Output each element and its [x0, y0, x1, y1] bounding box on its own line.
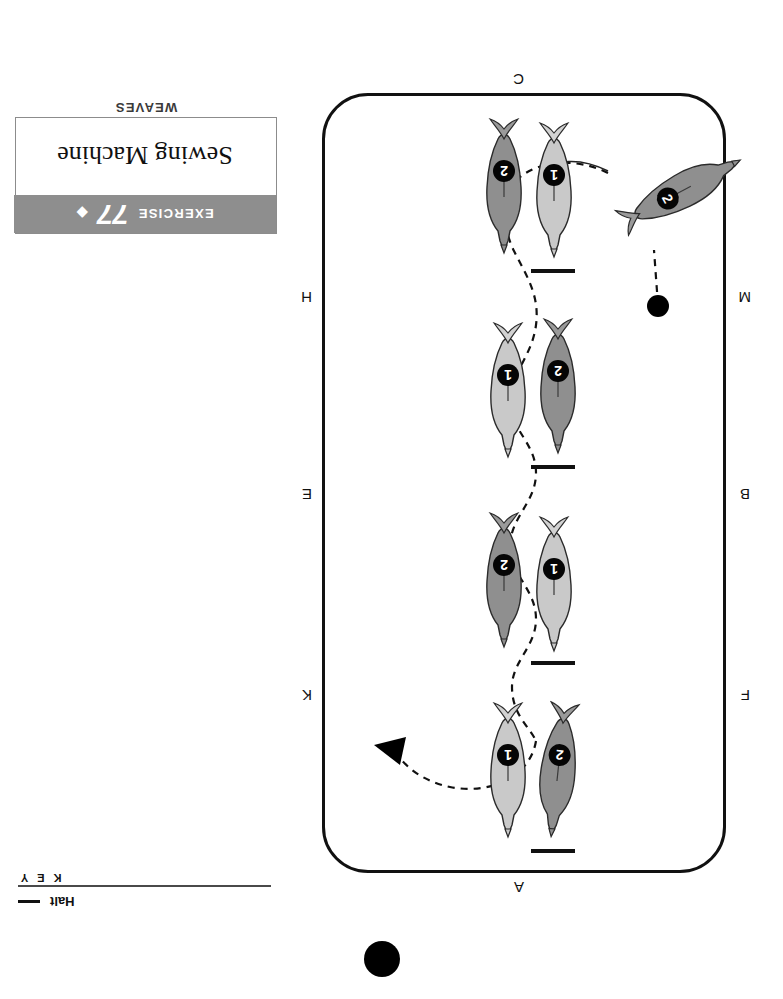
halt-bar-pair-3: [531, 661, 575, 665]
page-marker-dot: [364, 941, 400, 977]
exercise-number: 77: [97, 200, 128, 228]
exercise-name: Sewing Machine: [14, 116, 276, 195]
svg-text:1: 1: [504, 367, 512, 383]
svg-text:2: 2: [555, 747, 565, 764]
arena-letter-a: A: [513, 880, 524, 895]
exercise-card: EXERCISE 77 ◆ Sewing Machine: [15, 117, 277, 234]
key-divider: [18, 885, 271, 887]
horse-figure-1-pair-4: 1: [482, 701, 534, 841]
horse-figure-1-pair-1: 1: [528, 121, 580, 261]
key-title: K E Y: [18, 872, 62, 884]
svg-text:2: 2: [500, 557, 508, 573]
arena-letter-h: H: [301, 290, 312, 305]
svg-text:2: 2: [500, 163, 508, 179]
dressage-arena: A F B M C H E K: [322, 93, 726, 873]
exercise-category-label: EXERCISE: [138, 207, 214, 222]
horse-figure-1-pair-2: 1: [482, 321, 534, 461]
horse-figure-2-pair-3: 2: [478, 511, 530, 651]
horse-figure-2-pair-2: 2: [532, 317, 584, 457]
key-entry-halt: Halt: [18, 894, 75, 909]
worksheet-sheet: Halt K E Y A F B M C H E K: [0, 0, 783, 999]
arena-letter-k: K: [301, 688, 312, 703]
page: Halt K E Y A F B M C H E K: [0, 0, 783, 999]
arena-letter-m: M: [738, 290, 751, 305]
arena-letter-f: F: [740, 688, 750, 703]
svg-text:1: 1: [550, 167, 558, 183]
key-entry-label: Halt: [50, 894, 75, 909]
svg-text:2: 2: [554, 363, 562, 379]
halt-bar-pair-2: [531, 465, 575, 469]
exercise-header-bar: EXERCISE 77 ◆: [14, 195, 276, 233]
diamond-icon: ◆: [76, 207, 88, 222]
horse-figure-1-pair-3: 1: [528, 515, 580, 655]
arena-letter-c: C: [513, 72, 524, 87]
halt-bar-pair-1: [531, 269, 575, 273]
svg-text:1: 1: [550, 561, 558, 577]
halt-bar-pair-4: [531, 849, 575, 853]
svg-text:1: 1: [504, 747, 512, 763]
arena-letter-b: B: [739, 487, 750, 502]
horse-figure-2-pair-1: 2: [478, 117, 530, 257]
key-legend: Halt K E Y: [18, 855, 271, 911]
exercise-title-block: EXERCISE 77 ◆ Sewing Machine WEAVES: [15, 96, 277, 234]
start-point-dot: [647, 295, 669, 317]
section-label: WEAVES: [15, 100, 277, 115]
halt-bar-icon: [18, 900, 40, 903]
arena-letter-e: E: [301, 487, 312, 502]
